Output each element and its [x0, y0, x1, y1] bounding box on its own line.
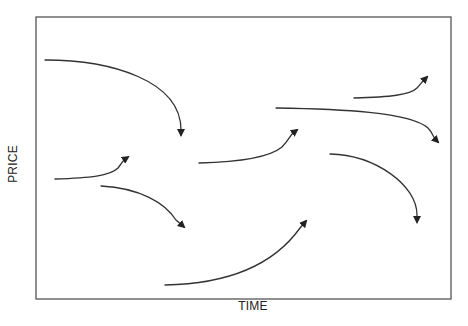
arrow-7-up-arrow-icon [354, 77, 427, 98]
arrow-8-down-arrow-icon [330, 154, 417, 222]
plot-frame [36, 17, 451, 299]
x-axis-label: TIME [238, 299, 267, 313]
arrow-3-down-arrow-icon [101, 186, 184, 227]
price-time-diagram [0, 0, 468, 326]
arrow-4-up-arrow-icon [165, 221, 306, 285]
y-axis-label: PRICE [6, 145, 20, 183]
arrow-2-up-arrow-icon [55, 157, 128, 179]
arrow-5-up-arrow-icon [199, 130, 297, 163]
arrow-1-down-arrow-icon [45, 60, 181, 135]
arrow-group [45, 60, 438, 285]
arrow-6-down-arrow-icon [276, 108, 438, 142]
